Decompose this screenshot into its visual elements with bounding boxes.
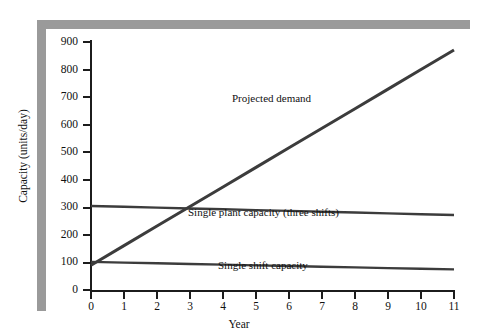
annotation-projected-demand: Projected demand [232, 92, 311, 104]
capacity-planning-chart: 900 800 700 600 500 400 300 200 100 0 [0, 0, 478, 336]
annotation-single-plant-capacity: Single plant capacity (three shifts) [188, 206, 339, 218]
y-axis-title: Capacity (units/day) [17, 81, 29, 231]
plot-area: 900 800 700 600 500 400 300 200 100 0 [0, 0, 478, 336]
annotation-single-shift-capacity: Single shift capacity [218, 259, 308, 271]
series-lines [0, 0, 478, 336]
line-projected-demand [91, 50, 454, 265]
x-axis-title: Year [0, 318, 478, 330]
